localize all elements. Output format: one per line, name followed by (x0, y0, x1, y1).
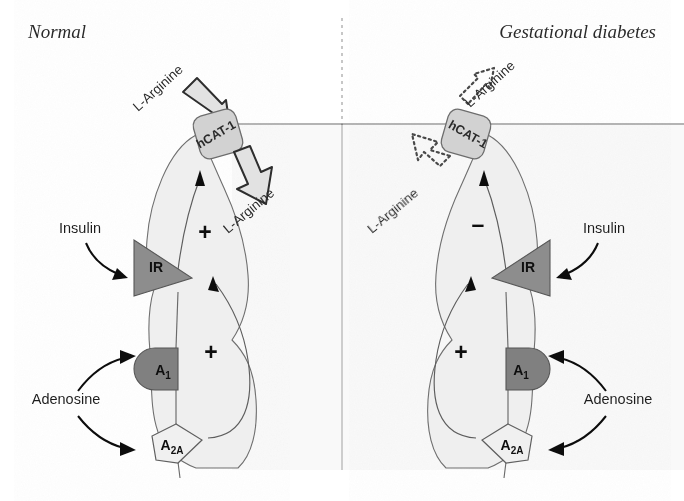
figure-canvas: hCAT-1 L-Arginine L-Arginine + + IR Insu… (0, 0, 684, 501)
adenosine-ligand-label-left: Adenosine (32, 391, 101, 407)
pathway-diagram-svg: hCAT-1 L-Arginine L-Arginine + + IR Insu… (0, 0, 684, 501)
insulin-receptor-label-right: IR (521, 259, 535, 275)
transport-effect-sign-right: – (472, 211, 485, 237)
adenosine-ligand-label-right: Adenosine (584, 391, 653, 407)
insulin-ligand-label-left: Insulin (59, 220, 101, 236)
adenosine-effect-sign-right: + (454, 339, 467, 365)
panel-title-normal: Normal (27, 21, 86, 42)
transport-effect-sign-left: + (198, 219, 211, 245)
adenosine-effect-sign-left: + (204, 339, 217, 365)
panel-title-gestational-diabetes: Gestational diabetes (499, 21, 656, 42)
insulin-ligand-label-right: Insulin (583, 220, 625, 236)
insulin-receptor-label-left: IR (149, 259, 163, 275)
